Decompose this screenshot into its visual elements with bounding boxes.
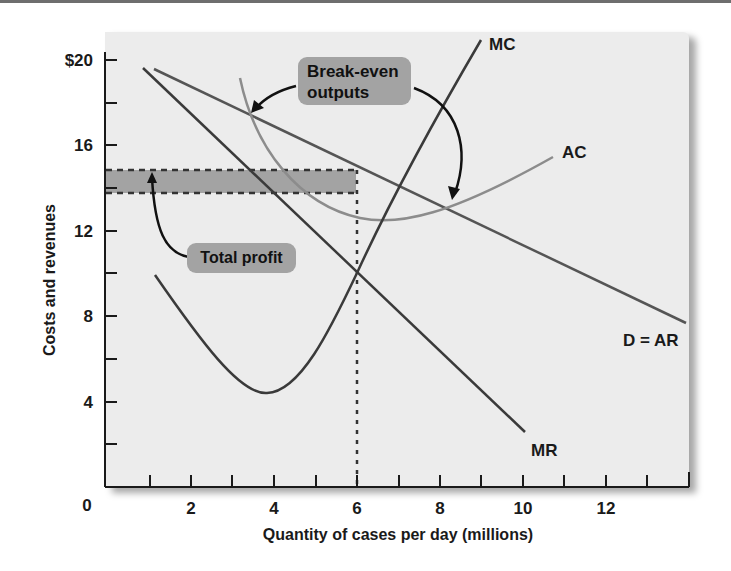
svg-text:2: 2 [186,499,195,518]
svg-text:12: 12 [597,499,616,518]
total-profit-callout: Total profit [187,243,296,273]
total-profit-region [106,170,356,193]
breakeven-line2: outputs [307,82,411,103]
y-tick-labels: $20 16 12 8 4 [65,51,94,412]
svg-text:4: 4 [84,393,94,412]
arrowhead-right-icon [448,186,460,200]
ac-label: AC [562,143,587,162]
x-axis-title: Quantity of cases per day (millions) [263,526,533,543]
demand-ar-curve [154,69,686,323]
svg-text:16: 16 [74,136,93,155]
svg-text:$20: $20 [65,51,93,70]
x-axis-ticks [150,472,689,487]
mc-label: MC [489,35,515,54]
x-tick-labels: 0 2 4 6 8 10 12 [82,496,615,518]
svg-text:0: 0 [82,496,91,515]
svg-text:4: 4 [269,499,279,518]
demand-ar-label: D = AR [623,331,679,350]
svg-text:8: 8 [84,307,93,326]
svg-text:6: 6 [352,499,361,518]
breakeven-line1: Break-even [307,61,411,82]
breakeven-callout: Break-even outputs [298,57,411,105]
mr-label: MR [531,441,557,460]
svg-text:8: 8 [435,499,444,518]
svg-text:12: 12 [74,222,93,241]
total-profit-label: Total profit [200,249,282,266]
breakeven-arrow-right [414,88,461,193]
y-axis-title: Costs and revenues [41,204,58,356]
svg-text:10: 10 [514,499,533,518]
y-axis-ticks [105,60,117,444]
breakeven-arrow-left [256,86,296,108]
